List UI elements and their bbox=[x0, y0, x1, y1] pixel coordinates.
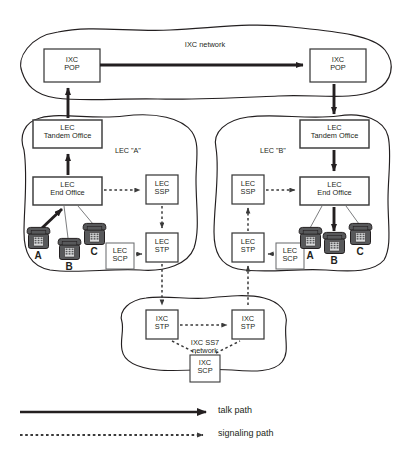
box-lec-a-scp bbox=[106, 243, 134, 269]
legend-symbols bbox=[20, 412, 206, 435]
loop-phone-b-a bbox=[64, 206, 68, 238]
diagram-canvas bbox=[0, 0, 409, 455]
phone-a-lec-a bbox=[27, 227, 50, 248]
box-ixc-scp bbox=[190, 355, 220, 382]
phone-b-lec-a bbox=[58, 238, 81, 259]
network-diagram: IXC network LEC "A" LEC "B" IXC SS7 netw… bbox=[0, 0, 409, 455]
box-lec-a-tandem bbox=[33, 120, 102, 148]
box-lec-b-tandem bbox=[300, 120, 369, 148]
box-ixc-stp-left bbox=[146, 310, 178, 339]
phone-c-lec-a bbox=[83, 223, 106, 244]
box-lec-b-ssp bbox=[232, 175, 264, 204]
phone-c-lec-b bbox=[349, 223, 372, 244]
sig-ixc-stp-left-to-scp bbox=[172, 341, 196, 353]
signaling-paths bbox=[104, 190, 295, 353]
phone-b-lec-b bbox=[323, 232, 346, 253]
box-lec-b-stp bbox=[232, 233, 264, 262]
box-ixc-pop-left bbox=[44, 49, 100, 82]
box-lec-b-scp bbox=[276, 243, 304, 269]
loop-phone-a-b bbox=[310, 206, 322, 228]
loop-phone-c-a bbox=[78, 206, 93, 224]
sig-ixc-scp-to-stp-right bbox=[216, 341, 240, 353]
box-ixc-pop-right bbox=[310, 49, 366, 82]
box-lec-a-ssp bbox=[146, 175, 178, 204]
box-lec-b-end bbox=[300, 177, 369, 205]
box-lec-a-stp bbox=[146, 233, 178, 262]
box-lec-a-end bbox=[33, 177, 102, 205]
talk-phone-a-to-end-a bbox=[42, 209, 62, 228]
phone-a-lec-b bbox=[299, 227, 322, 248]
loop-phone-c-b bbox=[346, 206, 359, 224]
box-ixc-stp-right bbox=[232, 310, 264, 339]
